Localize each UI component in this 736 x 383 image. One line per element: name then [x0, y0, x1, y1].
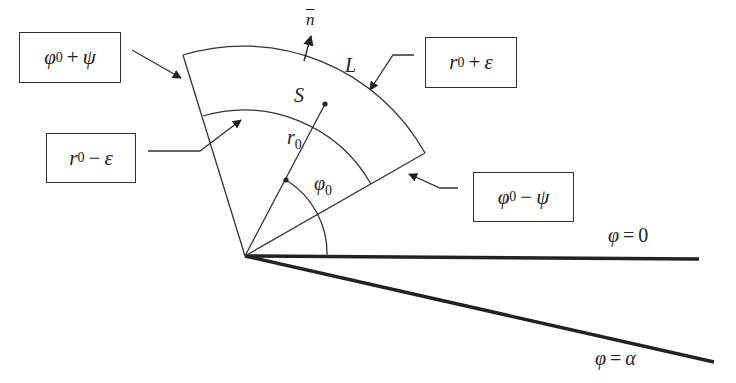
sector-edge-end: [183, 55, 245, 256]
boundary-label-L: L: [345, 54, 356, 77]
ray-phi-zero: [245, 256, 699, 259]
label-box-phi0-minus-psi: φ0−ψ: [473, 172, 574, 222]
box-sub: 0: [458, 55, 465, 71]
label-box-r0-minus-eps: r0−ε: [46, 133, 136, 183]
angle-label-phi0: φ0: [314, 172, 332, 199]
box-op: +: [67, 45, 79, 70]
label-box-phi0-plus-psi: φ0+ψ: [19, 32, 121, 83]
callout-arrow-phi0-minus-psi: [409, 174, 458, 188]
region-symbol: S: [294, 84, 304, 106]
box-base: r: [69, 146, 77, 171]
box-op: −: [89, 146, 101, 171]
ray-label-phi-alpha: φ=α: [595, 347, 636, 370]
box-sub: 0: [56, 50, 63, 66]
box-base: φ: [44, 45, 56, 70]
angle-base: φ: [314, 172, 325, 194]
normal-symbol: n: [306, 10, 315, 29]
box-base: r: [449, 50, 457, 75]
region-label-S: S: [294, 84, 304, 107]
radius-sub: 0: [295, 137, 302, 152]
ray-zero-lhs: φ: [608, 224, 619, 246]
callout-arrow-r0-plus-eps: [370, 55, 414, 90]
center-point-dot: [322, 101, 327, 106]
boundary-symbol: L: [345, 54, 356, 76]
box-rhs: ψ: [536, 185, 549, 210]
box-op: −: [520, 185, 532, 210]
box-sub: 0: [78, 150, 85, 166]
box-op: +: [469, 50, 481, 75]
callout-arrow-phi0-plus-psi: [132, 50, 181, 78]
ray-zero-rhs: 0: [638, 224, 648, 246]
label-box-r0-plus-eps: r0+ε: [425, 37, 517, 88]
box-rhs: ε: [104, 146, 112, 171]
box-sub: 0: [509, 189, 516, 205]
normal-vector-label: n: [306, 10, 315, 30]
ray-label-phi-zero: φ=0: [608, 224, 648, 247]
ray-alpha-op: =: [610, 347, 621, 369]
ray-zero-op: =: [623, 224, 634, 246]
box-rhs: ε: [484, 50, 492, 75]
radius-base: r: [287, 126, 295, 148]
ray-alpha-lhs: φ: [595, 347, 606, 369]
radius-label-r0: r0: [287, 126, 302, 153]
ray-phi-alpha: [245, 256, 714, 362]
ray-alpha-rhs: α: [625, 347, 636, 369]
box-rhs: ψ: [83, 45, 96, 70]
box-base: φ: [498, 185, 510, 210]
angle-sub: 0: [325, 183, 332, 198]
callout-arrow-r0-minus-eps: [148, 120, 241, 151]
